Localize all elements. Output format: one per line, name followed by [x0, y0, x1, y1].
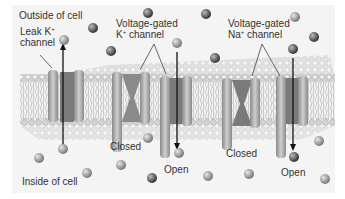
leak-k-channel — [48, 70, 84, 122]
na-closed-label: Closed — [226, 148, 257, 159]
inside-of-cell-label: Inside of cell — [22, 176, 78, 187]
vg-na-channel-label: Voltage-gatedNa+ channel — [228, 18, 290, 40]
ion-channel-diagram: Outside of cell Leak K+channel Voltage-g… — [0, 0, 345, 199]
k-closed-label: Closed — [110, 141, 141, 152]
vg-k-channel-label: Voltage-gatedK+ channel — [116, 18, 178, 40]
na-open-label: Open — [281, 167, 305, 178]
k-open-label: Open — [164, 164, 188, 175]
outside-of-cell-label: Outside of cell — [19, 10, 82, 21]
leak-k-channel-label: Leak K+channel — [20, 26, 55, 48]
